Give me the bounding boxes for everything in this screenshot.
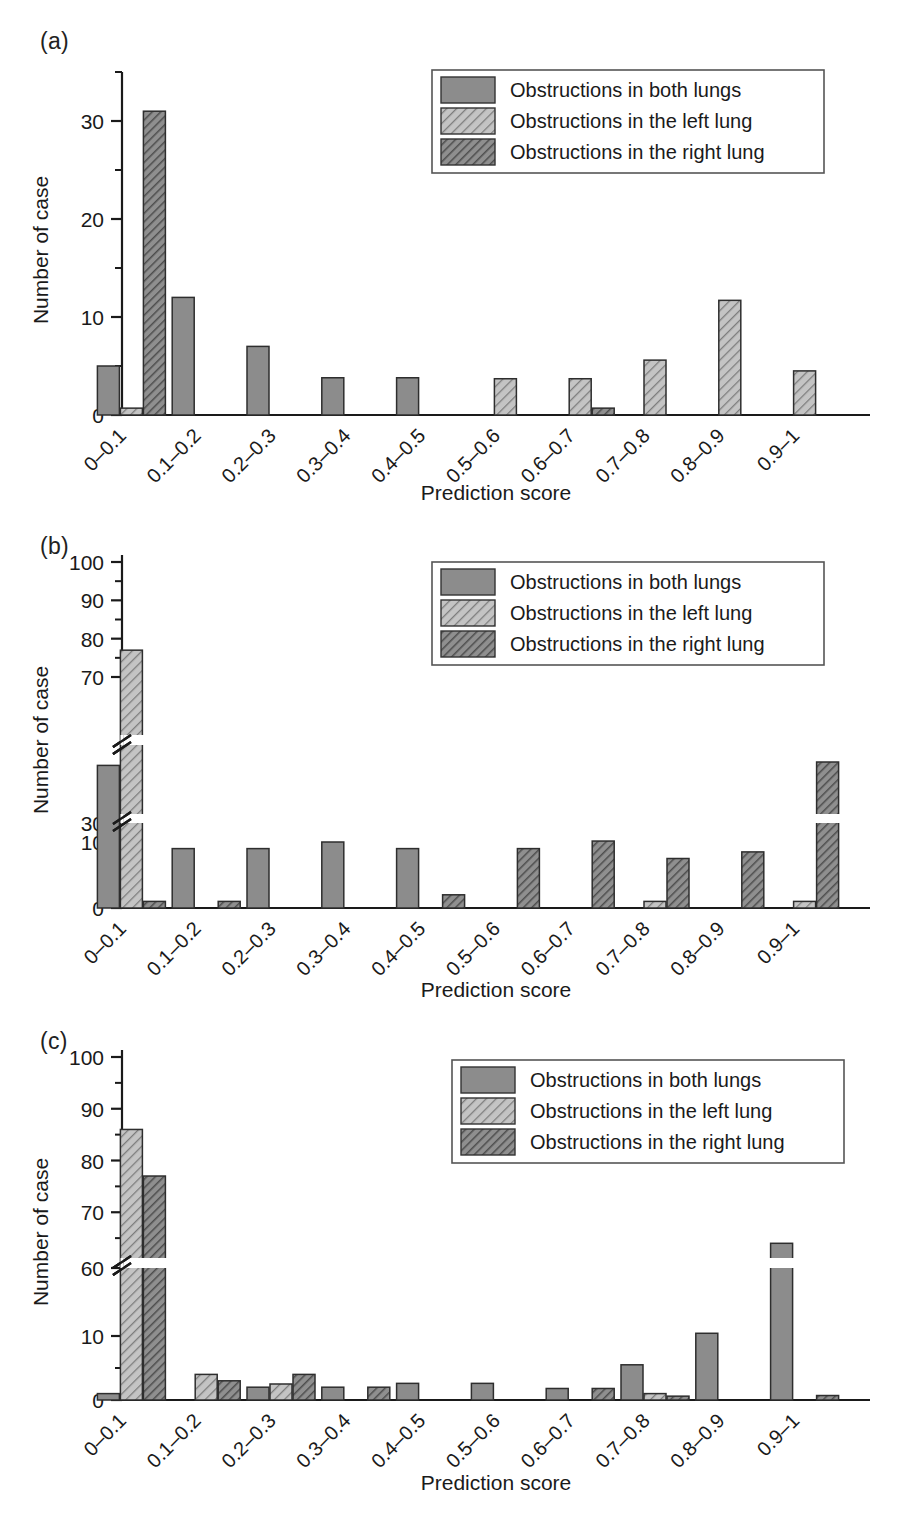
bar bbox=[592, 1388, 614, 1400]
panel-b-plot: 010307080901000–0.10.1–0.20.2–0.30.3–0.4… bbox=[0, 505, 906, 1017]
bar bbox=[592, 841, 614, 908]
y-axis-title: Number of case bbox=[29, 176, 52, 324]
bar bbox=[794, 901, 816, 908]
legend-label: Obstructions in the left lung bbox=[530, 1100, 772, 1122]
svg-text:0.1–0.2: 0.1–0.2 bbox=[142, 917, 205, 980]
x-tick-label: 0–0.1 bbox=[79, 1409, 130, 1460]
bar bbox=[97, 765, 119, 908]
legend: Obstructions in both lungsObstructions i… bbox=[432, 70, 824, 173]
y-tick-label: 100 bbox=[69, 551, 104, 574]
y-tick-label: 100 bbox=[69, 1046, 104, 1069]
y-tick-label: 80 bbox=[81, 628, 104, 651]
svg-text:0.4–0.5: 0.4–0.5 bbox=[367, 917, 430, 980]
bar bbox=[293, 1374, 315, 1400]
legend-swatch bbox=[461, 1098, 515, 1124]
bar bbox=[494, 379, 516, 415]
bar bbox=[97, 1394, 119, 1400]
axis-break-band bbox=[124, 1258, 872, 1268]
bar bbox=[719, 300, 741, 415]
bar bbox=[247, 346, 269, 415]
svg-text:0.3–0.4: 0.3–0.4 bbox=[292, 424, 355, 487]
svg-text:0.8–0.9: 0.8–0.9 bbox=[666, 917, 729, 980]
x-tick-label: 0.1–0.2 bbox=[142, 917, 205, 980]
bar bbox=[270, 1384, 292, 1400]
legend-label: Obstructions in both lungs bbox=[510, 571, 741, 593]
svg-text:0.2–0.3: 0.2–0.3 bbox=[217, 1409, 280, 1472]
y-tick-label: 60 bbox=[81, 1257, 104, 1280]
y-tick-label: 90 bbox=[81, 1098, 104, 1121]
axis-break-band bbox=[124, 735, 872, 745]
x-tick-label: 0.7–0.8 bbox=[591, 917, 654, 980]
bar bbox=[817, 762, 839, 908]
x-tick-label: 0–0.1 bbox=[79, 917, 130, 968]
y-axis-title: Number of case bbox=[29, 1158, 52, 1306]
bar bbox=[397, 378, 419, 415]
svg-text:Number of case: Number of case bbox=[29, 1158, 52, 1306]
bar bbox=[817, 1396, 839, 1400]
svg-text:0.5–0.6: 0.5–0.6 bbox=[441, 1409, 504, 1472]
legend-swatch bbox=[441, 631, 495, 657]
bar bbox=[517, 849, 539, 908]
x-tick-label: 0.4–0.5 bbox=[367, 1409, 430, 1472]
y-tick-label: 70 bbox=[81, 1201, 104, 1224]
x-tick-label: 0.7–0.8 bbox=[591, 424, 654, 487]
bar bbox=[195, 1374, 217, 1400]
panel-a-svg: 01020300–0.10.1–0.20.2–0.30.3–0.40.4–0.5… bbox=[0, 0, 906, 510]
bar bbox=[794, 371, 816, 415]
svg-text:0.2–0.3: 0.2–0.3 bbox=[217, 917, 280, 980]
x-tick-label: 0.5–0.6 bbox=[441, 917, 504, 980]
legend-label: Obstructions in the right lung bbox=[510, 633, 765, 655]
x-axis-title: Prediction score bbox=[421, 978, 572, 1001]
svg-text:0.9–1: 0.9–1 bbox=[752, 1409, 803, 1460]
x-tick-label: 0.2–0.3 bbox=[217, 424, 280, 487]
x-tick-label: 0.8–0.9 bbox=[666, 917, 729, 980]
x-tick-label: 0.1–0.2 bbox=[142, 424, 205, 487]
bar bbox=[443, 895, 465, 908]
y-tick-label: 80 bbox=[81, 1150, 104, 1173]
axis-break-band bbox=[124, 814, 872, 823]
panel-c-plot: 010607080901000–0.10.1–0.20.2–0.30.3–0.4… bbox=[0, 1000, 906, 1520]
bar bbox=[667, 1396, 689, 1400]
x-tick-label: 0.2–0.3 bbox=[217, 917, 280, 980]
svg-text:0.6–0.7: 0.6–0.7 bbox=[516, 424, 579, 487]
bar bbox=[322, 1387, 344, 1400]
bar bbox=[97, 366, 119, 415]
svg-text:0–0.1: 0–0.1 bbox=[79, 424, 130, 475]
legend-label: Obstructions in the left lung bbox=[510, 602, 752, 624]
svg-text:0.4–0.5: 0.4–0.5 bbox=[367, 424, 430, 487]
y-tick-label: 10 bbox=[81, 306, 104, 329]
bar bbox=[172, 849, 194, 908]
x-tick-label: 0.6–0.7 bbox=[516, 424, 579, 487]
svg-text:0.4–0.5: 0.4–0.5 bbox=[367, 1409, 430, 1472]
svg-text:0.7–0.8: 0.7–0.8 bbox=[591, 917, 654, 980]
svg-text:0.9–1: 0.9–1 bbox=[752, 424, 803, 475]
bar bbox=[667, 859, 689, 909]
bar bbox=[644, 901, 666, 908]
bar bbox=[397, 1383, 419, 1400]
x-tick-label: 0.2–0.3 bbox=[217, 1409, 280, 1472]
bar bbox=[696, 1333, 718, 1400]
svg-text:0.8–0.9: 0.8–0.9 bbox=[666, 1409, 729, 1472]
svg-text:0.8–0.9: 0.8–0.9 bbox=[666, 424, 729, 487]
legend-label: Obstructions in both lungs bbox=[510, 79, 741, 101]
x-axis-title: Prediction score bbox=[421, 1471, 572, 1494]
x-tick-label: 0.6–0.7 bbox=[516, 917, 579, 980]
svg-text:0.3–0.4: 0.3–0.4 bbox=[292, 917, 355, 980]
x-tick-label: 0.4–0.5 bbox=[367, 917, 430, 980]
legend-swatch bbox=[441, 139, 495, 165]
x-tick-label: 0.1–0.2 bbox=[142, 1409, 205, 1472]
bar bbox=[368, 1387, 390, 1400]
y-tick-label: 70 bbox=[81, 666, 104, 689]
y-tick-label: 10 bbox=[81, 1325, 104, 1348]
svg-text:Number of case: Number of case bbox=[29, 176, 52, 324]
x-tick-label: 0.7–0.8 bbox=[591, 1409, 654, 1472]
svg-text:0.2–0.3: 0.2–0.3 bbox=[217, 424, 280, 487]
svg-text:0.9–1: 0.9–1 bbox=[752, 917, 803, 968]
svg-text:0.6–0.7: 0.6–0.7 bbox=[516, 917, 579, 980]
bar bbox=[742, 852, 764, 908]
bar bbox=[644, 360, 666, 415]
x-tick-label: 0.8–0.9 bbox=[666, 424, 729, 487]
bar bbox=[143, 111, 165, 415]
bar bbox=[172, 297, 194, 415]
svg-text:0.1–0.2: 0.1–0.2 bbox=[142, 1409, 205, 1472]
